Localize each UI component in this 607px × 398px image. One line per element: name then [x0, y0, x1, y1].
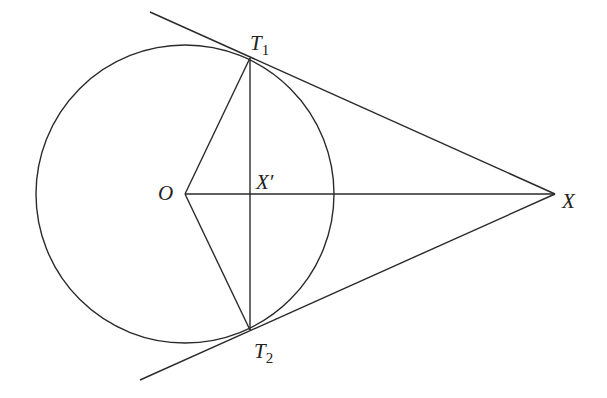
geometry-figure: O X′ X T1 T2: [0, 0, 607, 398]
diagram-canvas: O X′ X T1 T2: [0, 0, 607, 398]
radius-OT1: [185, 58, 250, 194]
label-T1: T1: [250, 31, 269, 58]
tangent-line-T2: [140, 194, 555, 380]
label-X: X: [561, 189, 576, 213]
label-T2: T2: [254, 339, 273, 366]
radius-OT2: [185, 194, 250, 330]
label-X-prime: X′: [255, 170, 274, 194]
tangent-line-T1: [150, 12, 555, 194]
label-O: O: [158, 181, 173, 205]
